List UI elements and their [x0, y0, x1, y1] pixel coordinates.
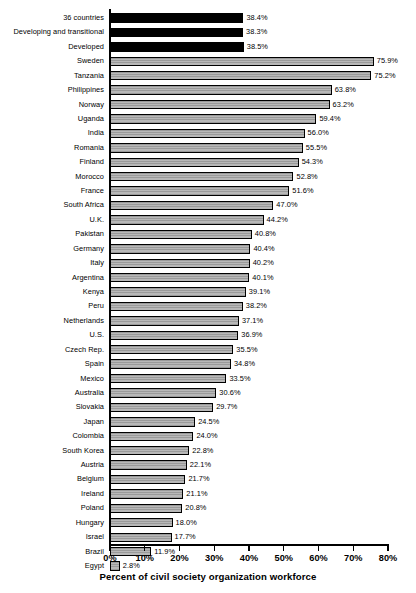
category-label: Norway [0, 98, 104, 112]
bar [110, 201, 273, 210]
category-label: Spain [0, 357, 104, 371]
chart-row: Argentina40.1% [0, 271, 416, 285]
bar [110, 230, 252, 239]
bar-value-label: 18.0% [176, 516, 197, 530]
category-label: Japan [0, 415, 104, 429]
chart-row: Tanzania75.2% [0, 69, 416, 83]
chart-row: Romania55.5% [0, 141, 416, 155]
bar [110, 374, 226, 383]
bar-value-label: 33.5% [229, 372, 250, 386]
bar [110, 475, 185, 484]
category-label: India [0, 126, 104, 140]
bar [110, 504, 182, 513]
category-label: Netherlands [0, 314, 104, 328]
chart-row: Pakistan40.8% [0, 227, 416, 241]
category-label: Belgium [0, 472, 104, 486]
x-axis-tick [214, 546, 215, 551]
category-label: Morocco [0, 170, 104, 184]
chart-row: South Africa47.0% [0, 198, 416, 212]
bar [110, 359, 231, 368]
bar [110, 460, 187, 469]
category-label: U.K. [0, 213, 104, 227]
bar-value-label: 24.5% [198, 415, 219, 429]
bar-value-label: 39.1% [249, 285, 270, 299]
category-label: Colombia [0, 429, 104, 443]
category-label: Brazil [0, 545, 104, 559]
chart-row: Norway63.2% [0, 98, 416, 112]
category-label: Kenya [0, 285, 104, 299]
bar-value-label: 63.8% [335, 83, 356, 97]
bar [110, 518, 173, 527]
bar-value-label: 54.3% [302, 155, 323, 169]
x-axis-tick [179, 546, 180, 551]
chart-row: South Korea22.8% [0, 444, 416, 458]
bar-value-label: 40.8% [255, 227, 276, 241]
chart-row: France51.6% [0, 184, 416, 198]
chart-row: Spain34.8% [0, 357, 416, 371]
bar [110, 158, 299, 167]
bar-value-label: 52.8% [296, 170, 317, 184]
category-label: South Africa [0, 198, 104, 212]
category-label: Israel [0, 530, 104, 544]
bar-value-label: 24.0% [196, 429, 217, 443]
bar [110, 129, 305, 138]
bar-value-label: 40.2% [253, 256, 274, 270]
chart-row: Netherlands37.1% [0, 314, 416, 328]
bar [110, 388, 216, 397]
x-axis-tick [144, 546, 145, 551]
chart-row: Ireland21.1% [0, 487, 416, 501]
bar-value-label: 35.5% [236, 343, 257, 357]
chart-row: Italy40.2% [0, 256, 416, 270]
chart-row: Philippines63.8% [0, 83, 416, 97]
bar-value-label: 36.9% [241, 328, 262, 342]
category-label: 36 countries [0, 11, 104, 25]
x-axis-tick-label: 80% [368, 553, 408, 563]
chart-row: Czech Rep.35.5% [0, 343, 416, 357]
bar-value-label: 51.6% [292, 184, 313, 198]
x-axis-tick [109, 546, 110, 551]
category-label: Hungary [0, 516, 104, 530]
chart-row: Uganda59.4% [0, 112, 416, 126]
bar-value-label: 44.2% [267, 213, 288, 227]
x-axis-tick [387, 546, 388, 551]
chart-row: Belgium21.7% [0, 472, 416, 486]
x-axis-title: Percent of civil society organization wo… [0, 571, 416, 582]
chart-row: Finland54.3% [0, 155, 416, 169]
bar-value-label: 63.2% [333, 98, 354, 112]
category-label: Ireland [0, 487, 104, 501]
bar-value-label: 30.6% [219, 386, 240, 400]
category-label: Uganda [0, 112, 104, 126]
chart-row: Developing and transitional38.3% [0, 25, 416, 39]
chart-row: Japan24.5% [0, 415, 416, 429]
chart-row: India56.0% [0, 126, 416, 140]
bar-value-label: 56.0% [308, 126, 329, 140]
bar [110, 100, 330, 109]
bar-chart: 36 countries38.4%Developing and transiti… [0, 0, 416, 593]
category-label: Romania [0, 141, 104, 155]
category-label: Peru [0, 299, 104, 313]
bar-value-label: 38.5% [247, 40, 268, 54]
bar-value-label: 20.8% [185, 501, 206, 515]
chart-row: U.K.44.2% [0, 213, 416, 227]
category-label: Italy [0, 256, 104, 270]
chart-row: Developed38.5% [0, 40, 416, 54]
bar [110, 244, 250, 253]
bar [110, 186, 289, 195]
category-label: U.S. [0, 328, 104, 342]
chart-row: Germany40.4% [0, 242, 416, 256]
chart-row: Slovakia29.7% [0, 400, 416, 414]
category-label: Australia [0, 386, 104, 400]
bar [110, 316, 239, 325]
bar [110, 533, 172, 542]
category-label: Developing and transitional [0, 25, 104, 39]
chart-row: U.S.36.9% [0, 328, 416, 342]
bar [110, 489, 183, 498]
bar [110, 417, 195, 426]
bar-value-label: 40.4% [253, 242, 274, 256]
bar [110, 259, 250, 268]
bar [110, 143, 303, 152]
chart-row: Israel17.7% [0, 530, 416, 544]
bar-value-label: 59.4% [319, 112, 340, 126]
category-label: France [0, 184, 104, 198]
category-label: Germany [0, 242, 104, 256]
